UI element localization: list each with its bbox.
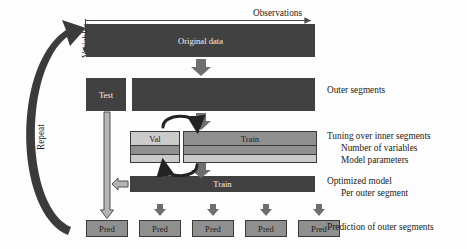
original-data-block: Original data bbox=[86, 24, 315, 57]
repeat-label: Repeat bbox=[36, 124, 46, 150]
val-band-bottom bbox=[131, 155, 179, 162]
val-band-mid bbox=[131, 146, 179, 154]
down-arrow-pred-2 bbox=[154, 204, 166, 216]
test-label: Test bbox=[99, 90, 113, 100]
train-inner-band-mid bbox=[184, 146, 316, 154]
diagram-canvas: Observations Variables Original data Tes… bbox=[0, 0, 467, 249]
pred-box-2: Pred bbox=[139, 220, 181, 237]
train-inner-band-top: Train bbox=[184, 132, 316, 145]
train-optimized-label: Train bbox=[213, 179, 231, 189]
pred-label-5: Pred bbox=[311, 224, 327, 234]
val-band-top: Val bbox=[131, 132, 179, 145]
down-arrow-pred-3 bbox=[207, 204, 219, 216]
val-inner-segments-group: Val bbox=[130, 131, 180, 163]
optimized-to-test-arrow bbox=[112, 178, 128, 190]
rotation-arrow-bottom bbox=[164, 165, 197, 176]
pred-label-4: Pred bbox=[258, 224, 274, 234]
train-inner-label: Train bbox=[241, 134, 259, 144]
train-inner-segments-group: Train bbox=[183, 131, 317, 163]
label-tuning-inner-segments: Tuning over inner segments bbox=[327, 131, 431, 143]
label-prediction-of-outer-segments: Prediction of outer segments bbox=[327, 222, 434, 234]
pred-label-2: Pred bbox=[152, 224, 168, 234]
label-optimized-model: Optimized model bbox=[327, 176, 392, 188]
label-model-parameters: Model parameters bbox=[341, 155, 408, 167]
down-arrow-outer-to-inner bbox=[191, 113, 211, 130]
rotation-arrow-top bbox=[163, 116, 197, 127]
pred-box-4: Pred bbox=[245, 220, 287, 237]
val-label: Val bbox=[149, 134, 160, 144]
original-data-label: Original data bbox=[178, 36, 223, 46]
down-arrow-pred-5 bbox=[313, 204, 325, 216]
observations-axis-label: Observations bbox=[253, 8, 302, 18]
test-to-pred-arrow bbox=[101, 112, 114, 219]
test-block: Test bbox=[86, 78, 126, 111]
pred-box-1: Pred bbox=[86, 220, 128, 237]
train-inner-band-bottom bbox=[184, 155, 316, 162]
pred-label-1: Pred bbox=[99, 224, 115, 234]
down-arrow-original-to-outer bbox=[191, 59, 211, 76]
train-optimized-block: Train bbox=[130, 176, 315, 192]
outer-remainder-block bbox=[132, 78, 315, 111]
pred-label-3: Pred bbox=[205, 224, 221, 234]
label-per-outer-segment: Per outer segment bbox=[341, 188, 408, 200]
label-outer-segments: Outer segments bbox=[327, 85, 385, 97]
down-arrow-pred-4 bbox=[260, 204, 272, 216]
label-number-of-variables: Number of variables bbox=[341, 143, 417, 155]
pred-box-3: Pred bbox=[192, 220, 234, 237]
